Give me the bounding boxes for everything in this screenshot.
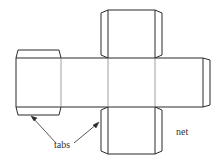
top-face-right-tab [155, 10, 162, 58]
tabs-arrow-left-head [31, 116, 37, 121]
tabs-label: tabs [54, 140, 70, 150]
tabs-arrow-right-head [93, 122, 99, 128]
top-face [108, 10, 155, 58]
right-tab [203, 58, 210, 107]
net-label: net [176, 127, 188, 137]
bottom-face [108, 107, 155, 154]
left-face-top-tab [16, 50, 61, 58]
net-drawing [0, 0, 221, 164]
tabs-arrow-right [74, 124, 97, 143]
bottom-face-right-tab [155, 107, 162, 154]
cube-net-diagram: tabs net [0, 0, 221, 164]
left-face-bottom-tab [16, 107, 61, 115]
top-face-left-tab [101, 10, 108, 58]
bottom-face-left-tab [101, 107, 108, 154]
tabs-arrow-left [33, 118, 56, 143]
